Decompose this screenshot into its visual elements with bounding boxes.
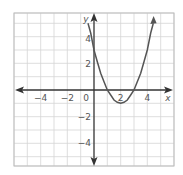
x-tick-neg2: −2 — [61, 93, 74, 103]
coordinate-plane: −4 −2 0 2 4 x 4 2 −2 −4 y — [0, 0, 183, 175]
y-tick-neg2: −2 — [78, 112, 91, 122]
x-axis-label: x — [164, 93, 171, 103]
y-tick-2: 2 — [85, 59, 91, 69]
curve-right-arrow-icon — [150, 16, 156, 24]
y-tick-neg4: −4 — [78, 138, 92, 148]
x-tick-2: 2 — [118, 93, 124, 103]
y-axis-label: y — [82, 14, 89, 24]
y-tick-4: 4 — [85, 34, 91, 44]
x-tick-neg4: −4 — [34, 93, 48, 103]
origin-label: 0 — [83, 93, 89, 103]
x-tick-4: 4 — [144, 93, 150, 103]
